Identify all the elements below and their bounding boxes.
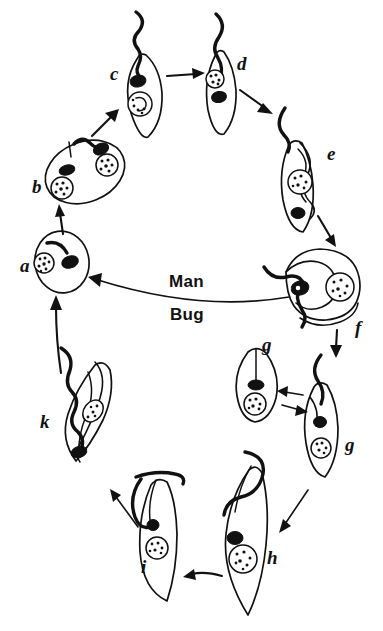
stage-h-nucleus xyxy=(229,545,257,573)
arrow-g2-to-h xyxy=(279,490,308,533)
arrow-c-to-d xyxy=(167,68,205,79)
stage-b-organism xyxy=(36,129,135,215)
stage-label-h: h xyxy=(267,547,278,568)
stage-b-nucleus-2 xyxy=(96,154,118,176)
arrow-e-to-f xyxy=(318,216,336,247)
stage-label-d: d xyxy=(237,53,247,74)
arrow-h-to-i xyxy=(183,569,222,580)
stage-c-nucleus xyxy=(128,92,152,116)
host-label-bug: Bug xyxy=(170,305,204,324)
arrow-g2-to-g1-upper xyxy=(277,386,303,397)
stage-g1-nucleus xyxy=(244,393,266,415)
stage-g2-organism xyxy=(305,355,338,477)
stage-label-a: a xyxy=(20,255,30,276)
stage-label-f: f xyxy=(355,317,363,338)
stage-e-nucleus xyxy=(288,170,312,194)
stage-g1-organism xyxy=(236,349,277,422)
stage-h-organism xyxy=(224,452,267,615)
stage-label-g2: g xyxy=(344,434,355,455)
stage-label-g1: g xyxy=(261,334,272,355)
stage-g2-nucleus xyxy=(311,438,331,458)
arrow-a-to-b xyxy=(55,204,65,234)
host-label-man: Man xyxy=(169,272,204,291)
arrow-b-to-c xyxy=(92,109,119,136)
arrow-k-to-a xyxy=(50,295,62,373)
stage-f-organism xyxy=(264,249,360,327)
stage-label-e: e xyxy=(327,143,336,164)
arrow-d-to-e xyxy=(240,90,273,114)
arrow-g1-to-g2-lower xyxy=(282,405,308,416)
stage-d-nucleus xyxy=(206,70,224,88)
stage-k-organism xyxy=(61,348,111,462)
stage-label-b: b xyxy=(32,176,42,197)
stage-c-organism xyxy=(128,12,162,137)
stage-i-nucleus xyxy=(146,537,168,559)
life-cycle-illustration: Man Bug a b c d e f g g h i k xyxy=(0,0,383,631)
stage-label-k: k xyxy=(40,411,50,432)
life-cycle-diagram: Man Bug a b c d e f g g h i k xyxy=(0,0,383,631)
stage-i-organism xyxy=(133,473,184,601)
stage-f-nucleus xyxy=(326,273,354,301)
stage-a-nucleus xyxy=(34,253,54,273)
stage-a-organism xyxy=(31,228,93,297)
stage-label-c: c xyxy=(110,63,119,84)
stage-d-organism xyxy=(206,14,236,134)
arrow-f-to-g2 xyxy=(330,330,342,358)
stage-b-nucleus-1 xyxy=(51,177,73,199)
stage-e-organism xyxy=(279,108,314,232)
stage-label-i: i xyxy=(141,556,147,577)
